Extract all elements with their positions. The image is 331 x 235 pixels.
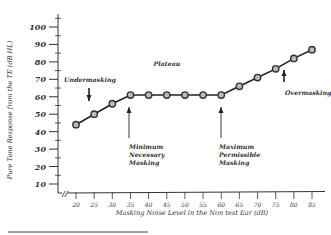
x-tick-label: 35 xyxy=(127,201,135,208)
masking-plateau-chart: 102030405060708090100 //2025303540455055… xyxy=(0,0,331,235)
annotations: UndermaskingPlateauOvermaskingMinimumNec… xyxy=(64,60,331,167)
maximum-permissible-masking-label: Maximum xyxy=(218,143,254,150)
x-tick-label: 60 xyxy=(217,201,225,208)
y-tick-label: 20 xyxy=(34,162,47,172)
maximum-permissible-masking-label: Permissible xyxy=(218,151,260,158)
x-tick-label: 25 xyxy=(89,201,98,208)
plateau-label: Plateau xyxy=(153,60,181,67)
x-tick-label: 45 xyxy=(162,201,171,208)
maximum-permissible-masking-label: Masking xyxy=(218,159,250,167)
x-tick-label: 65 xyxy=(236,201,244,208)
y-axis: 102030405060708090100 xyxy=(29,14,61,193)
y-tick-label: 40 xyxy=(35,127,47,137)
y-tick-label: 100 xyxy=(29,22,46,32)
x-tick-label: 80 xyxy=(290,201,298,208)
data-point xyxy=(145,92,151,98)
data-point xyxy=(73,121,79,127)
minimum-necessary-masking-label: Minimum xyxy=(128,143,164,150)
minimum-necessary-masking-label: Masking xyxy=(128,159,160,167)
x-axis-label: Masking Noise Level in the Non test Ear … xyxy=(115,209,269,217)
x-tick-label: 20 xyxy=(71,201,80,208)
data-point xyxy=(272,66,278,72)
data-point xyxy=(254,74,260,80)
x-tick-label: 30 xyxy=(108,201,116,208)
data-point xyxy=(236,83,242,89)
x-tick-label: 85 xyxy=(308,201,316,208)
overmasking-label: Overmasking xyxy=(285,89,331,97)
x-axis: //2025303540455055606570758085 xyxy=(58,188,325,208)
data-point xyxy=(182,92,188,98)
undermasking-label: Undermasking xyxy=(64,76,116,84)
y-tick-label: 10 xyxy=(35,179,47,189)
y-tick-label: 80 xyxy=(35,57,47,67)
x-tick-label: 75 xyxy=(272,201,280,208)
data-series xyxy=(73,46,315,127)
minimum-necessary-masking-label: Necessary xyxy=(128,151,166,159)
data-point xyxy=(91,111,97,117)
y-tick-label: 90 xyxy=(35,39,47,49)
data-point xyxy=(127,92,133,98)
x-tick-label: 50 xyxy=(181,201,189,208)
data-point xyxy=(218,92,224,98)
y-tick-label: 60 xyxy=(35,92,47,102)
data-point xyxy=(200,92,206,98)
y-tick-label: 70 xyxy=(35,74,47,84)
data-point xyxy=(109,101,115,107)
x-tick-label: 55 xyxy=(199,201,207,208)
data-point xyxy=(309,46,315,52)
y-axis-label: Pure Tone Response from the TE (dB HL) xyxy=(6,40,14,180)
y-tick-label: 50 xyxy=(35,109,47,119)
data-point xyxy=(291,55,297,61)
x-tick-label: 70 xyxy=(254,201,262,208)
data-point xyxy=(164,92,170,98)
y-tick-label: 30 xyxy=(35,144,47,154)
x-tick-label: 40 xyxy=(144,201,153,208)
axis-break-mark: // xyxy=(61,188,69,198)
